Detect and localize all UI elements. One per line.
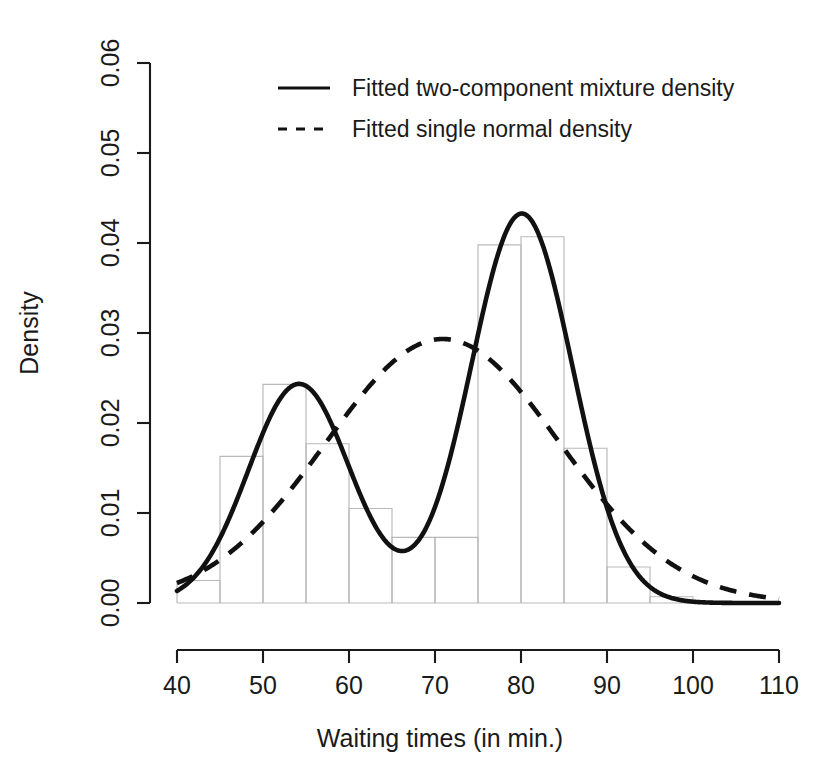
density-plot-figure: 0.000.010.020.030.040.050.06 40506070809… — [0, 0, 834, 771]
plot-canvas: 0.000.010.020.030.040.050.06 40506070809… — [0, 0, 834, 771]
y-axis-tick-label: 0.02 — [96, 399, 124, 448]
histogram-bar — [435, 537, 478, 603]
x-axis-title: Waiting times (in min.) — [317, 724, 563, 752]
histogram-bar — [306, 444, 349, 603]
histogram-bar — [349, 509, 392, 604]
x-axis-ticks: 405060708090100110 — [163, 650, 799, 699]
y-axis: 0.000.010.020.030.040.050.06 — [96, 39, 150, 628]
histogram-bars — [177, 237, 693, 603]
y-axis-ticks: 0.000.010.020.030.040.050.06 — [96, 39, 150, 628]
x-axis-tick-label: 50 — [249, 671, 277, 699]
legend-label-normal: Fitted single normal density — [352, 116, 632, 142]
x-axis-tick-label: 40 — [163, 671, 191, 699]
histogram-bar — [564, 448, 607, 603]
x-axis-tick-label: 70 — [421, 671, 449, 699]
x-axis-tick-label: 90 — [593, 671, 621, 699]
x-axis-tick-label: 60 — [335, 671, 363, 699]
y-axis-title: Density — [15, 291, 43, 375]
legend-entry-mixture: Fitted two-component mixture density — [278, 75, 735, 101]
histogram-bar — [607, 567, 650, 603]
x-axis-tick-label: 80 — [507, 671, 535, 699]
x-axis-tick-label: 110 — [759, 671, 799, 699]
legend: Fitted two-component mixture density Fit… — [278, 75, 735, 142]
x-axis-tick-label: 100 — [672, 671, 714, 699]
legend-label-mixture: Fitted two-component mixture density — [352, 75, 735, 101]
x-axis: 405060708090100110 — [163, 650, 799, 699]
y-axis-tick-label: 0.06 — [96, 39, 124, 88]
y-axis-tick-label: 0.05 — [96, 129, 124, 178]
y-axis-tick-label: 0.04 — [96, 219, 124, 268]
legend-entry-normal: Fitted single normal density — [278, 116, 632, 142]
y-axis-tick-label: 0.01 — [96, 489, 124, 538]
y-axis-tick-label: 0.00 — [96, 579, 124, 628]
y-axis-tick-label: 0.03 — [96, 309, 124, 358]
